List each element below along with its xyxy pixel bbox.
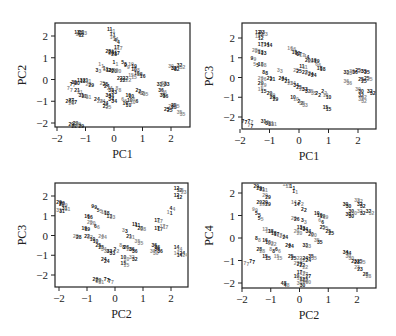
data-point-label: 1: [295, 189, 298, 195]
data-point-label: 35: [311, 255, 317, 261]
plot-svg: −2−1012−2−1012PC2PC429293131292929292929…: [0, 0, 396, 336]
data-point-label: 32: [369, 210, 375, 216]
data-point-label: 15: [277, 255, 283, 261]
y-tick-label: 0: [230, 232, 236, 244]
data-point-label: 30: [300, 282, 306, 288]
x-tick-label: 0: [297, 293, 303, 305]
data-point-label: 24: [282, 234, 288, 240]
y-tick-label: 1: [230, 210, 236, 222]
data-point-label: 26: [294, 216, 300, 222]
data-point-label: 29: [265, 201, 271, 207]
x-tick-label: 2: [354, 293, 360, 305]
data-point-label: 25: [328, 230, 334, 236]
data-point-label: 8: [258, 237, 261, 243]
data-point-label: 5: [261, 216, 264, 222]
data-point-label: 35: [317, 239, 323, 245]
data-point-label: 33: [305, 243, 311, 249]
data-point-label: 28: [366, 273, 372, 279]
data-point-label: 2: [304, 207, 307, 213]
x-tick-label: 1: [326, 293, 332, 305]
y-tick-label: −2: [223, 277, 235, 289]
x-tick-label: −1: [265, 293, 277, 305]
x-tick-label: −2: [236, 293, 248, 305]
data-point-label: 24: [288, 243, 294, 249]
data-point-label: 30: [305, 279, 311, 285]
data-point-label: 3: [304, 219, 307, 225]
scatter-panel-pc2-pc4: −2−1012−2−1012PC2PC429293131292929292929…: [0, 0, 396, 336]
y-tick-label: −1: [223, 255, 235, 267]
data-point-label: 8: [287, 282, 290, 288]
y-axis-label: PC4: [202, 225, 216, 246]
x-axis-label: PC2: [299, 308, 320, 322]
data-point-label: 25: [360, 259, 366, 265]
y-tick-label: 2: [230, 187, 236, 199]
data-point-label: 22: [303, 264, 309, 270]
data-point-label: 7: [252, 259, 255, 265]
data-point-label: 30: [349, 213, 355, 219]
data-point-label: 15: [265, 255, 271, 261]
